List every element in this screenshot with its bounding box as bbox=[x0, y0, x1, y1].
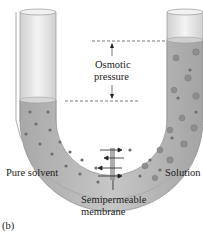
osmotic-label-1: Osmotic bbox=[95, 59, 131, 71]
membrane-label-2: membrane bbox=[81, 206, 125, 218]
solution-label: Solution bbox=[165, 167, 201, 179]
pure-solvent-label: Pure solvent bbox=[6, 167, 58, 179]
membrane-label-1: Semipermeable bbox=[81, 194, 146, 206]
membrane bbox=[110, 148, 115, 180]
panel-label: (b) bbox=[2, 220, 14, 232]
osmotic-label-2: pressure bbox=[94, 71, 129, 83]
